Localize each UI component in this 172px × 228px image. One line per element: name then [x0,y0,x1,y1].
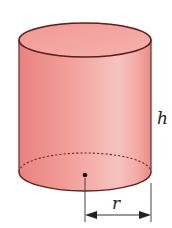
height-label: h [157,108,168,128]
arrowhead-right-icon [139,211,151,219]
radius-label: r [112,193,121,213]
cylinder-body [19,40,151,191]
arrowhead-left-icon [85,211,97,219]
cylinder-diagram: h r [0,0,172,228]
cylinder-top-face [19,23,151,57]
bottom-center-point [83,173,88,178]
